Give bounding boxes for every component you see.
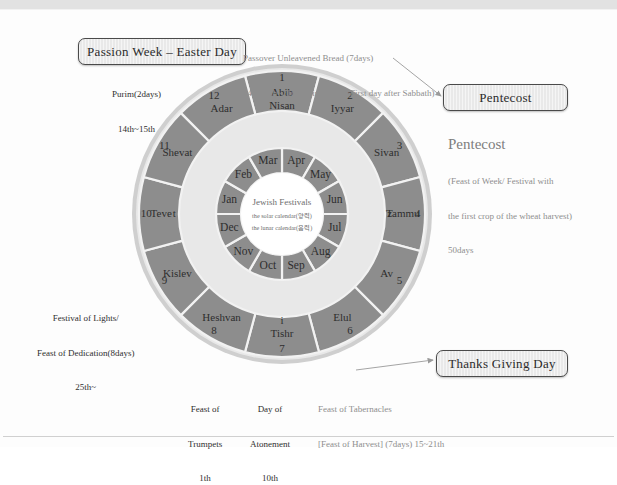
annotation-pentecost-line2: the first crop of the wheat harvest) (448, 211, 572, 223)
annotation-tabernacles-line2: [Feast of Harvest] (7days) 15~21th (318, 439, 444, 451)
annotation-trumpets-line3: 1th (188, 473, 222, 485)
annotation-purim-line2: 14th~15th (112, 124, 161, 136)
outer-ring-name: Tishr (271, 327, 294, 339)
inner-ring-month: Nov (234, 245, 254, 257)
annotation-feast-of-tabernacles: Feast of Tabernacles [Feast of Harvest] … (318, 381, 444, 473)
outer-ring-name: Elul (333, 311, 351, 323)
outer-ring-name: Sivan (374, 146, 400, 158)
annotation-feast-of-trumpets: Feast of Trumpets 1th (188, 381, 222, 485)
hub-lunar-calendar: the lunar calendar(음력) (252, 224, 312, 232)
inner-ring-month: Oct (260, 259, 277, 271)
outer-ring-name: Kislev (163, 267, 192, 279)
outer-ring-name: Av (380, 267, 393, 279)
annotation-day-of-atonement: Day of Atonement 10th (250, 381, 290, 485)
annotation-pentecost-heading: Pentecost (448, 135, 572, 153)
annotation-purim: Purim(2days) 14th~15th (112, 66, 161, 158)
inner-ring-month: Sep (287, 259, 305, 272)
annotation-pentecost-line3: 50days (448, 245, 572, 257)
annotation-atonement-line2: Atonement (250, 439, 290, 451)
inner-ring-month: Dec (220, 221, 239, 233)
bottom-divider-line (3, 436, 614, 437)
outer-ring-name: Shevat (162, 146, 192, 158)
annotation-atonement-line3: 10th (250, 473, 290, 485)
inner-ring-month: Jun (327, 193, 343, 205)
annotation-passover: Passover Unleavened Bread (7days) 14th 1… (243, 30, 435, 122)
annotation-lights-line3: 25th~ (37, 382, 134, 394)
outer-ring-name: Heshvan (202, 311, 241, 323)
annotation-lights-line2: Feast of Dedication(8days) (37, 348, 134, 360)
annotation-pentecost-line1: (Feast of Week/ Festival with (448, 176, 572, 188)
annotation-purim-line1: Purim(2days) (112, 89, 161, 101)
annotation-tabernacles-line1: Feast of Tabernacles (318, 404, 444, 416)
hub-solar-calendar: the solar calendar(양력) (252, 212, 312, 220)
annotation-festival-of-lights: Festival of Lights/ Feast of Dedication(… (37, 290, 134, 417)
outer-ring-name: z (387, 207, 392, 219)
outer-ring-number: 8 (211, 324, 217, 336)
annotation-trumpets-line1: Feast of (188, 404, 222, 416)
annotation-atonement-line1: Day of (250, 404, 290, 416)
inner-ring-month: Jul (328, 221, 341, 233)
outer-ring-name: Teve (151, 207, 172, 219)
callout-passion-week[interactable]: Passion Week – Easter Day (78, 38, 246, 65)
annotation-lights-line1: Festival of Lights/ (37, 313, 134, 325)
outer-ring-name: i (280, 314, 283, 326)
top-gray-band (0, 0, 617, 10)
annotation-trumpets-line2: Trumpets (188, 439, 222, 451)
outer-ring-number: 5 (397, 274, 403, 286)
callout-thanks-giving-day[interactable]: Thanks Giving Day (436, 350, 568, 377)
outer-ring-number: 7 (279, 342, 285, 354)
inner-ring-month: Feb (235, 168, 253, 180)
outer-ring-number: 12 (209, 89, 220, 101)
annotation-passover-line2: 14th 15th~21th First Fruits(First day af… (243, 88, 435, 100)
inner-ring-month: Jan (222, 193, 238, 205)
inner-ring-month: Aug (311, 245, 331, 258)
outer-ring-name: t (173, 207, 176, 219)
outer-ring-name: Adar (211, 102, 233, 114)
inner-ring-month: May (310, 168, 331, 181)
annotation-pentecost: Pentecost (Feast of Week/ Festival with … (448, 112, 572, 280)
inner-ring-month: Apr (287, 154, 305, 167)
annotation-passover-line1: Passover Unleavened Bread (7days) (243, 53, 435, 65)
callout-pentecost[interactable]: Pentecost (443, 84, 568, 111)
outer-ring-number: 6 (347, 324, 353, 336)
hub-title: Jewish Festivals (253, 197, 312, 207)
inner-ring-month: Mar (258, 154, 277, 166)
